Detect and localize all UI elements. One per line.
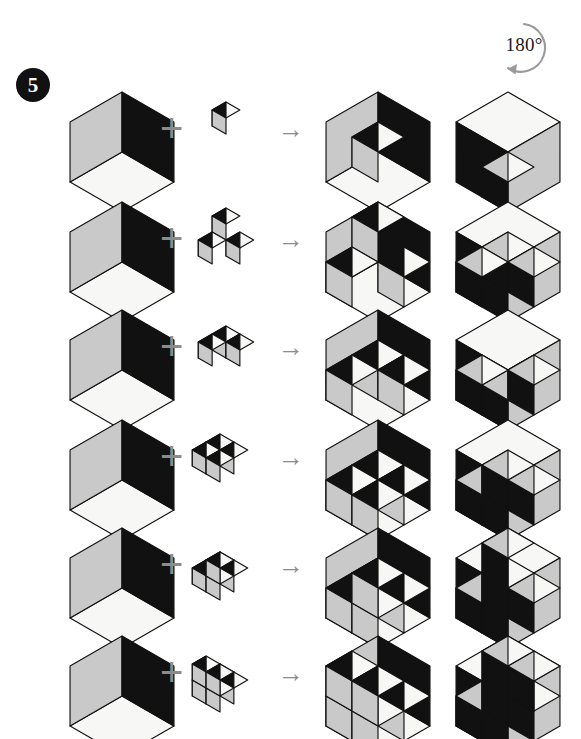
shell-plus-single-cube — [318, 78, 438, 186]
equation-row-1: +→ — [0, 78, 581, 186]
arrow-operator: → — [278, 224, 304, 255]
rotated-shell-plus-tripod-up-svg — [448, 188, 568, 296]
rotation-label: 180° — [488, 34, 560, 56]
stepped-block — [190, 622, 270, 722]
tripod-flat — [190, 296, 270, 396]
rotated-shell-plus-flat-slab-svg — [448, 406, 568, 514]
equation-row-6: +→ — [0, 622, 581, 730]
rotated-shell-plus-slab-with-cube-svg — [448, 514, 568, 622]
shell-plus-flat-slab — [318, 406, 438, 514]
shell-plus-tripod-up-svg — [318, 188, 438, 296]
plus-operator: + — [160, 436, 183, 476]
rotated-shell-plus-single-cube-svg — [448, 78, 568, 186]
arrow-operator: → — [278, 550, 304, 581]
flat-slab-svg — [190, 406, 270, 506]
shell-plus-tripod-up — [318, 188, 438, 296]
equation-row-5: +→ — [0, 514, 581, 622]
rotated-shell-plus-tripod-flat — [448, 296, 568, 404]
arrow-operator: → — [278, 114, 304, 145]
shell-plus-flat-slab-svg — [318, 406, 438, 514]
shell-plus-slab-with-cube — [318, 514, 438, 622]
tripod-up-svg — [190, 188, 270, 288]
tripod-flat-svg — [190, 296, 270, 396]
shell-plus-tripod-flat-svg — [318, 296, 438, 404]
slab-with-cube-svg — [190, 514, 270, 614]
rotation-marker: 180° — [488, 16, 560, 82]
puzzle-figure: 5 180° +→+→+→+→+→+→ — [0, 0, 581, 739]
rotated-shell-plus-stepped-block-svg — [448, 622, 568, 730]
rotated-shell-plus-stepped-block — [448, 622, 568, 730]
shell-plus-stepped-block-svg — [318, 622, 438, 730]
plus-operator: + — [160, 218, 183, 258]
slab-with-cube — [190, 514, 270, 614]
equation-row-3: +→ — [0, 296, 581, 404]
rotated-shell-plus-flat-slab — [448, 406, 568, 514]
plus-operator: + — [160, 108, 183, 148]
flat-slab — [190, 406, 270, 506]
tripod-up — [190, 188, 270, 288]
single-cube — [190, 78, 270, 178]
arrow-operator: → — [278, 658, 304, 689]
plus-operator: + — [160, 326, 183, 366]
rotated-shell-plus-tripod-flat-svg — [448, 296, 568, 404]
shell-plus-tripod-flat — [318, 296, 438, 404]
arrow-operator: → — [278, 332, 304, 363]
equation-row-2: +→ — [0, 188, 581, 296]
rotated-shell-plus-single-cube — [448, 78, 568, 186]
rotated-shell-plus-tripod-up — [448, 188, 568, 296]
shell-plus-single-cube-svg — [318, 78, 438, 186]
plus-operator: + — [160, 544, 183, 584]
rotated-shell-plus-slab-with-cube — [448, 514, 568, 622]
plus-operator: + — [160, 652, 183, 692]
stepped-block-svg — [190, 622, 270, 722]
single-cube-svg — [190, 78, 270, 178]
equation-row-4: +→ — [0, 406, 581, 514]
shell-plus-slab-with-cube-svg — [318, 514, 438, 622]
shell-plus-stepped-block — [318, 622, 438, 730]
arrow-operator: → — [278, 442, 304, 473]
